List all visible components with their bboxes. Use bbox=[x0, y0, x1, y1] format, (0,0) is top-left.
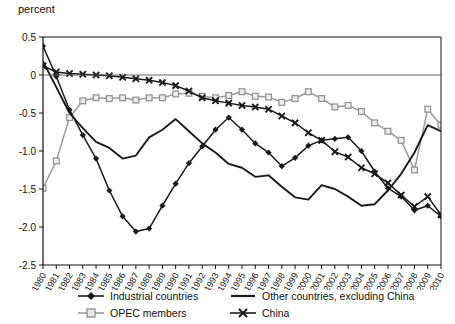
svg-text:0.5: 0.5 bbox=[22, 32, 36, 43]
legend-label: China bbox=[262, 307, 289, 319]
svg-text:-0.5: -0.5 bbox=[19, 108, 37, 119]
legend-label: Industrial countries bbox=[110, 290, 198, 302]
svg-text:-1.5: -1.5 bbox=[19, 184, 37, 195]
legend-item-china: China bbox=[230, 307, 289, 319]
svg-text:0: 0 bbox=[30, 70, 36, 81]
legend-label: Other countries, excluding China bbox=[262, 290, 414, 302]
svg-text:-2.5: -2.5 bbox=[19, 260, 37, 271]
legend-item-other-countries: Other countries, excluding China bbox=[230, 290, 414, 302]
diamond-line-icon bbox=[78, 290, 104, 302]
chart-figure: percent 0.50-0.5-1.0-1.5-2.0-2.519801981… bbox=[0, 0, 455, 324]
plain-line-icon bbox=[230, 290, 256, 302]
svg-text:-2.0: -2.0 bbox=[19, 222, 37, 233]
svg-text:-1.0: -1.0 bbox=[19, 146, 37, 157]
x-line-icon bbox=[230, 307, 256, 319]
legend-label: OPEC members bbox=[110, 307, 186, 319]
chart-axes: 0.50-0.5-1.0-1.5-2.0-2.51980198119821983… bbox=[0, 0, 455, 290]
square-line-icon bbox=[78, 307, 104, 319]
chart-legend: Industrial countries OPEC members Other … bbox=[78, 290, 453, 322]
legend-item-industrial-countries: Industrial countries bbox=[78, 290, 198, 302]
legend-item-opec-members: OPEC members bbox=[78, 307, 186, 319]
